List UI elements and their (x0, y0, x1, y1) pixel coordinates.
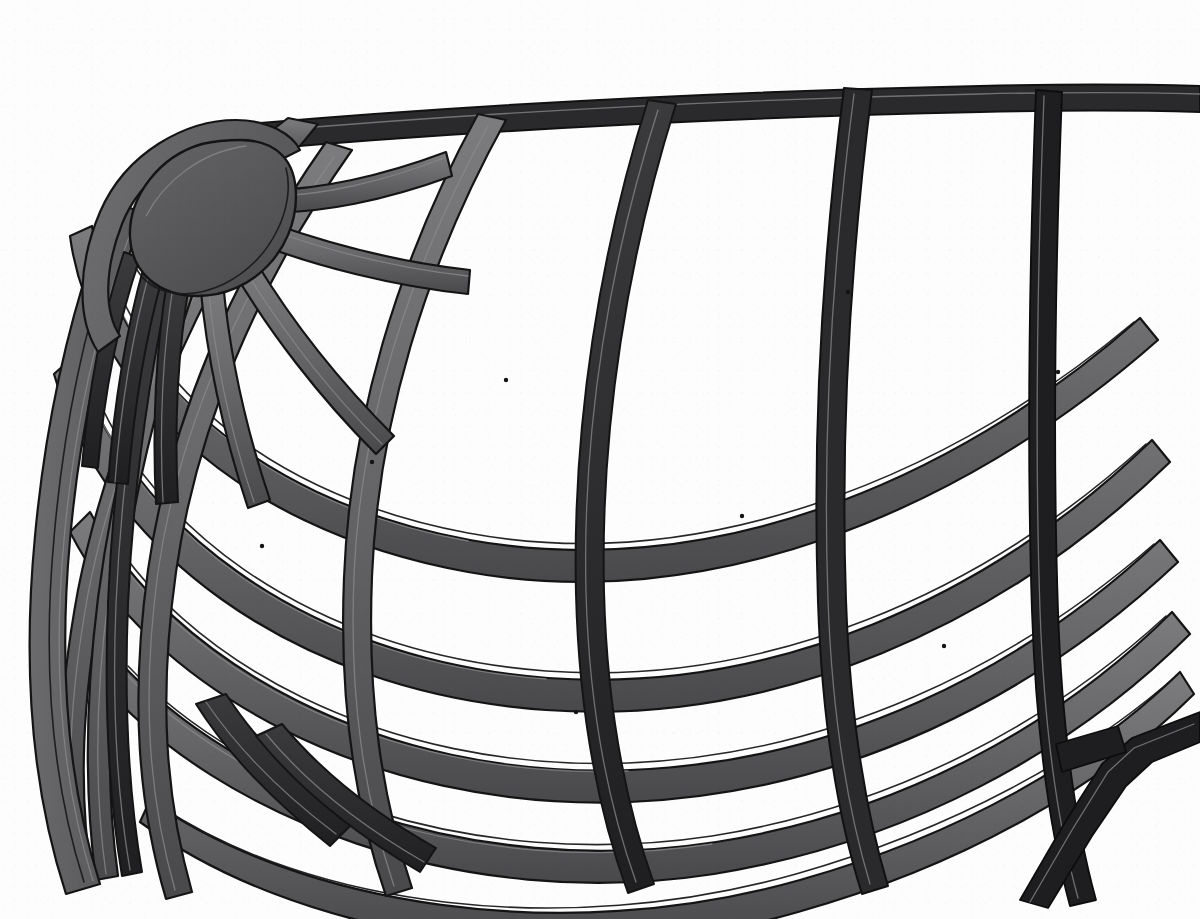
junction-node (846, 290, 850, 294)
junction-node (1056, 370, 1060, 374)
junction-node (740, 514, 744, 518)
junction-node (574, 710, 578, 714)
junction-node (260, 544, 264, 548)
junction-node (504, 378, 508, 382)
lattice-dome-illustration: .strutTop { fill:url(#gTop); stroke:#141… (0, 0, 1200, 919)
junction-node (942, 644, 946, 648)
junction-node (370, 460, 374, 464)
figure-canvas: .strutTop { fill:url(#gTop); stroke:#141… (0, 0, 1200, 919)
